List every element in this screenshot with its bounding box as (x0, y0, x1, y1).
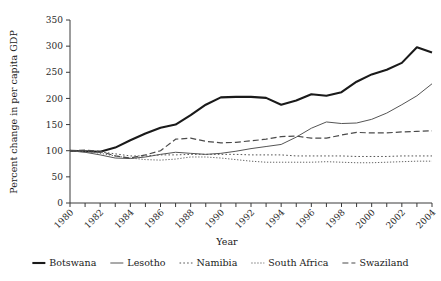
x-axis-tick-label: 1988 (173, 207, 196, 230)
y-axis-tick-label: 100 (46, 146, 63, 156)
y-axis-tick-label: 0 (57, 198, 63, 208)
x-axis-tick-label: 2004 (414, 207, 437, 230)
y-axis: 050100150200250300350 (46, 15, 70, 208)
legend-label-lesotho: Lesotho (127, 257, 165, 268)
x-axis-tick-label: 1996 (293, 207, 316, 230)
x-axis-tick-label: 1984 (112, 207, 135, 230)
y-axis-tick-label: 200 (46, 94, 63, 104)
legend-item-namibia[interactable]: Namibia (180, 257, 238, 268)
legend-label-namibia: Namibia (197, 257, 238, 268)
x-axis-tick-label: 2002 (384, 207, 407, 230)
line-chart: 050100150200250300350 198019821984198619… (0, 0, 441, 281)
y-axis-tick-label: 50 (52, 172, 64, 182)
x-axis-tick-label: 1980 (52, 207, 75, 230)
series-line-botswana (70, 47, 432, 152)
x-axis-tick-label: 1982 (82, 207, 105, 230)
y-axis-tick-label: 350 (46, 15, 63, 25)
x-axis-tick-label: 1994 (263, 207, 286, 230)
legend-item-swaziland[interactable]: Swaziland (342, 257, 408, 268)
x-axis-tick-label: 1990 (203, 207, 226, 230)
chart-figure: 050100150200250300350 198019821984198619… (0, 0, 441, 281)
legend-label-botswana: Botswana (49, 257, 96, 268)
x-axis-tick-label: 1986 (143, 207, 166, 230)
series-line-namibia (70, 151, 432, 157)
x-axis-title: Year (215, 236, 238, 247)
x-axis-tick-label: 2000 (354, 207, 377, 230)
y-axis-tick-label: 150 (46, 120, 63, 130)
y-axis-tick-label: 300 (46, 41, 63, 51)
x-axis-tick-label: 1992 (233, 207, 256, 230)
legend-item-lesotho[interactable]: Lesotho (110, 257, 165, 268)
legend-item-south-africa[interactable]: South Africa (251, 257, 328, 268)
series-lines (70, 47, 432, 163)
legend-label-swaziland: Swaziland (359, 257, 408, 268)
x-axis: 1980198219841986198819901992199419961998… (52, 203, 437, 231)
legend-label-south-africa: South Africa (268, 257, 328, 268)
series-line-swaziland (70, 131, 432, 158)
y-axis-tick-label: 250 (46, 67, 63, 77)
legend-item-botswana[interactable]: Botswana (32, 257, 96, 268)
y-axis-title: Percent change in per capita GDP (8, 30, 19, 194)
x-axis-tick-label: 1998 (324, 207, 347, 230)
chart-legend: BotswanaLesothoNamibiaSouth AfricaSwazil… (32, 257, 408, 268)
series-line-lesotho (70, 84, 432, 159)
